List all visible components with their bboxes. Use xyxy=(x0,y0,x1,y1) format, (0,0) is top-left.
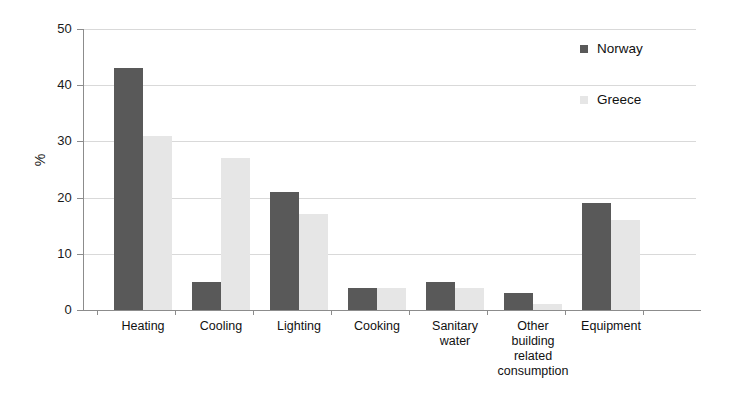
bar xyxy=(582,203,611,310)
legend-item: Greece xyxy=(580,93,643,107)
bar xyxy=(114,68,143,310)
y-tick-label: 0 xyxy=(32,303,72,316)
x-axis-label-line: building xyxy=(488,334,578,349)
x-axis-label: Otherbuildingrelatedconsumption xyxy=(488,319,578,379)
x-axis-label-line: Sanitary xyxy=(410,319,500,334)
y-tick-label: 40 xyxy=(32,78,72,91)
x-tick-mark xyxy=(487,310,488,315)
bar xyxy=(426,282,455,310)
bar xyxy=(221,158,250,310)
bar xyxy=(192,282,221,310)
x-axis-label-line: water xyxy=(410,334,500,349)
legend-label: Greece xyxy=(597,93,641,107)
bar xyxy=(611,220,640,310)
x-axis-label: Heating xyxy=(98,319,188,334)
y-tick-label: 20 xyxy=(32,191,72,204)
x-axis-label-line: Equipment xyxy=(566,319,656,334)
x-axis-label-line: Cooling xyxy=(176,319,266,334)
x-tick-mark xyxy=(643,310,644,315)
legend-label: Norway xyxy=(597,42,643,56)
legend-item: Norway xyxy=(580,42,643,56)
y-tick-label: 10 xyxy=(32,247,72,260)
bar xyxy=(504,293,533,310)
x-axis-label-line: related xyxy=(488,349,578,364)
x-tick-mark xyxy=(331,310,332,315)
x-tick-mark xyxy=(409,310,410,315)
y-tick-label: 50 xyxy=(32,22,72,35)
bar xyxy=(377,288,406,310)
x-tick-mark xyxy=(175,310,176,315)
bar-chart: % 50403020100 HeatingCoolingLightingCook… xyxy=(0,0,730,416)
x-tick-mark xyxy=(97,310,98,315)
legend-swatch-icon xyxy=(580,45,588,53)
y-tick-label: 30 xyxy=(32,134,72,147)
x-axis-label: Cooling xyxy=(176,319,266,334)
bar xyxy=(270,192,299,310)
chart-legend: NorwayGreece xyxy=(580,42,643,144)
x-axis-label-line: Lighting xyxy=(254,319,344,334)
x-axis-label-line: Cooking xyxy=(332,319,422,334)
x-axis-label-line: consumption xyxy=(488,364,578,379)
x-axis-label: Cooking xyxy=(332,319,422,334)
x-axis-label: Sanitarywater xyxy=(410,319,500,349)
bar xyxy=(299,214,328,310)
x-tick-mark xyxy=(253,310,254,315)
bar xyxy=(533,304,562,310)
legend-swatch-icon xyxy=(580,96,588,104)
bar xyxy=(455,288,484,310)
x-axis-label-line: Other xyxy=(488,319,578,334)
bar xyxy=(348,288,377,310)
y-axis-title: % xyxy=(32,145,48,175)
x-axis-label-line: Heating xyxy=(98,319,188,334)
x-axis-label: Lighting xyxy=(254,319,344,334)
bar xyxy=(143,136,172,310)
x-axis-label: Equipment xyxy=(566,319,656,334)
x-tick-mark xyxy=(565,310,566,315)
